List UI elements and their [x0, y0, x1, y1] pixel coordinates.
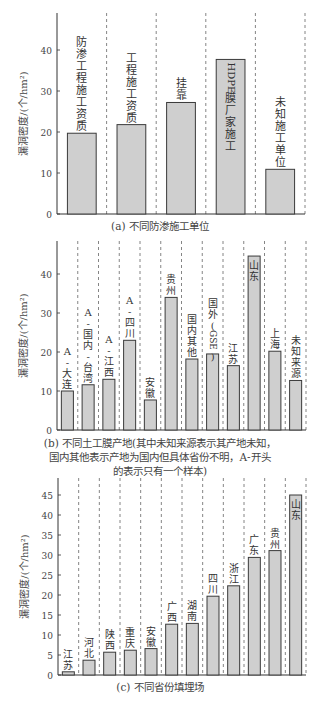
bar: [62, 672, 74, 675]
bar: [124, 650, 136, 675]
bar: [228, 586, 240, 675]
bar: [269, 551, 281, 675]
bar-label: 安: [146, 625, 156, 637]
bar-label: 庆: [125, 637, 135, 649]
bar-label: 苏: [63, 659, 73, 671]
bar-label: 重: [125, 626, 135, 638]
bar-label: 江: [63, 649, 73, 660]
bar-label: 广: [167, 601, 177, 612]
y-tick-label: 30: [42, 551, 54, 561]
bar: [104, 652, 116, 675]
y-tick-label: 45: [42, 491, 54, 501]
bar: [207, 596, 219, 675]
bar: [290, 495, 302, 675]
bar-label: 广: [249, 534, 259, 545]
bar-label: 陕: [105, 628, 115, 640]
bar: [248, 557, 260, 675]
y-axis-label: 漏洞密度/(个/hm²): [18, 534, 30, 619]
bar: [145, 649, 157, 675]
chart-caption: (c) 不同省份填埋场: [0, 680, 320, 694]
bar-label: 浙: [229, 563, 239, 574]
bar: [166, 624, 178, 675]
y-tick-label: 35: [42, 531, 54, 541]
bar: [186, 623, 198, 675]
bar-label: 四: [208, 573, 218, 584]
bar-label: 徽: [146, 636, 156, 648]
y-tick-label: 0: [47, 671, 53, 681]
y-tick-label: 40: [42, 511, 54, 521]
bar-label: 河: [84, 637, 94, 648]
bar-label: 川: [208, 584, 218, 595]
y-tick-label: 20: [42, 591, 54, 601]
y-tick-label: 5: [47, 651, 53, 661]
bar-label: 山: [291, 499, 301, 510]
bar-label: 江: [229, 574, 239, 585]
bar-label: 东: [291, 509, 301, 521]
bar-label: 北: [84, 648, 94, 659]
caption-line: (c) 不同省份填埋场: [0, 680, 320, 694]
y-tick-label: 10: [42, 631, 54, 641]
bar-label: 西: [105, 640, 115, 651]
bar: [83, 660, 95, 675]
bar-label: 东: [249, 544, 259, 556]
bar-label: 贵: [270, 527, 280, 539]
y-tick-label: 25: [42, 571, 54, 581]
bar-label: 州: [270, 539, 280, 550]
chart-c-province-landfill: 051015202530354045漏洞密度/(个/hm²)江苏河北陕西重庆安徽…: [0, 0, 320, 703]
bar-label: 西: [167, 612, 177, 623]
y-tick-label: 15: [42, 611, 54, 621]
bar-label: 湖: [187, 600, 197, 611]
bar-label: 南: [187, 610, 197, 622]
